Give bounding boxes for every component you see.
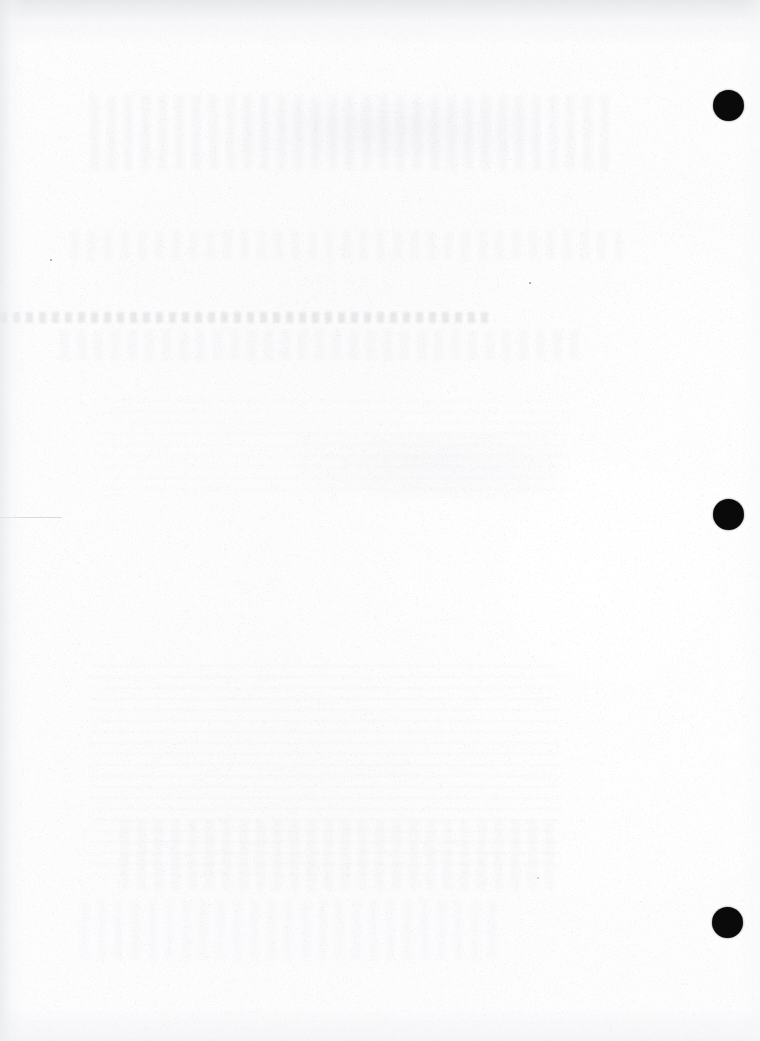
punch-hole-middle: [713, 499, 744, 530]
punch-hole-bottom: [712, 907, 743, 938]
paper-background: [0, 0, 760, 1041]
punch-hole-top: [713, 90, 744, 121]
scanned-page: [0, 0, 760, 1041]
